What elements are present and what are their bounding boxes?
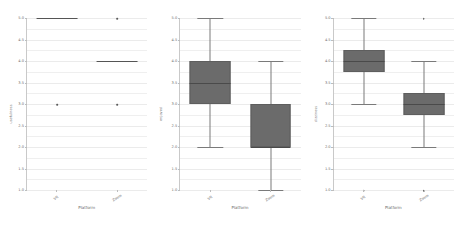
y-tick-label: 4.0 — [325, 59, 331, 63]
x-tick-label-zoom: Zoom — [418, 194, 429, 203]
y-tick-label: 3.5 — [325, 81, 331, 85]
box-flat-line — [97, 61, 138, 62]
y-tick-mark — [178, 190, 181, 191]
gridline — [27, 190, 147, 191]
y-tick-label: 1.5 — [172, 167, 178, 171]
plot-area — [333, 18, 454, 191]
median-line — [343, 61, 384, 62]
boxplot-vr — [190, 18, 231, 190]
y-tick-label: 2.0 — [18, 145, 24, 149]
y-tick-label: 3.5 — [18, 81, 24, 85]
y-tick-mark — [25, 126, 28, 127]
plot-area — [26, 18, 147, 191]
whisker-lower — [423, 115, 424, 147]
median-line — [190, 83, 231, 84]
y-tick-label: 4.0 — [18, 59, 24, 63]
x-tick-label-zoom: Zoom — [112, 194, 123, 203]
y-tick-label: 3.0 — [325, 102, 331, 106]
whisker-upper — [423, 61, 424, 93]
outlier-point — [116, 104, 118, 106]
y-tick-label: 2.0 — [325, 145, 331, 149]
outlier-point — [56, 104, 58, 106]
y-tick-label: 1.0 — [172, 188, 178, 192]
y-tick-label: 1.0 — [325, 188, 331, 192]
median-line — [403, 104, 444, 105]
y-tick-label: 4.5 — [325, 38, 331, 42]
y-tick-mark — [25, 169, 28, 170]
median-line — [250, 147, 291, 148]
outlier-point — [116, 18, 118, 20]
y-tick-mark — [25, 104, 28, 105]
boxplot-vr — [37, 18, 78, 190]
y-tick-label: 4.5 — [18, 38, 24, 42]
x-tick-mark — [363, 190, 364, 193]
boxplot-zoom — [97, 18, 138, 190]
y-axis-ticks: 1.01.52.02.53.03.54.04.55.0 — [8, 18, 24, 190]
whisker-cap-lower — [411, 147, 436, 148]
whisker-cap-upper — [198, 18, 223, 19]
x-axis-title: Platform — [333, 205, 454, 210]
whisker-cap-upper — [351, 18, 376, 19]
y-tick-mark — [331, 147, 334, 148]
y-tick-label: 5.0 — [172, 16, 178, 20]
y-tick-label: 4.0 — [172, 59, 178, 63]
y-tick-mark — [178, 147, 181, 148]
y-tick-mark — [178, 126, 181, 127]
x-tick-mark — [424, 190, 425, 193]
whisker-upper — [363, 18, 364, 50]
x-tick-label-vr: VR — [53, 195, 59, 201]
whisker-cap-upper — [258, 61, 283, 62]
x-axis-ticks: VRZoom — [26, 192, 147, 204]
y-tick-mark — [331, 18, 334, 19]
boxplot-zoom — [403, 18, 444, 190]
x-tick-mark — [270, 190, 271, 193]
y-tick-mark — [25, 190, 28, 191]
whisker-cap-lower — [351, 104, 376, 105]
plot-area — [179, 18, 300, 191]
x-axis-title: Platform — [26, 205, 147, 210]
y-tick-label: 2.5 — [172, 124, 178, 128]
x-tick-mark — [210, 190, 211, 193]
y-tick-label: 3.5 — [172, 81, 178, 85]
y-axis-ticks: 1.01.52.02.53.03.54.04.55.0 — [161, 18, 177, 190]
y-tick-mark — [331, 61, 334, 62]
boxplot-figure: usefulness1.01.52.02.53.03.54.04.55.0VRZ… — [0, 0, 460, 227]
x-axis-title: Platform — [179, 205, 300, 210]
x-axis-ticks: VRZoom — [179, 192, 300, 204]
whisker-cap-upper — [411, 61, 436, 62]
y-tick-label: 3.0 — [18, 102, 24, 106]
y-tick-mark — [25, 83, 28, 84]
whisker-lower — [210, 104, 211, 147]
y-tick-label: 2.5 — [18, 124, 24, 128]
y-tick-mark — [331, 40, 334, 41]
y-tick-label: 5.0 — [325, 16, 331, 20]
y-tick-mark — [25, 40, 28, 41]
box-iqr — [250, 104, 291, 147]
x-tick-label-vr: VR — [360, 195, 366, 201]
gridline — [334, 190, 454, 191]
x-tick-label-vr: VR — [206, 195, 212, 201]
panel-usefulness: usefulness1.01.52.02.53.03.54.04.55.0VRZ… — [0, 0, 153, 227]
y-tick-mark — [178, 61, 181, 62]
box-flat-line — [37, 18, 78, 19]
y-tick-mark — [25, 18, 28, 19]
y-tick-mark — [178, 104, 181, 105]
y-tick-label: 1.5 — [18, 167, 24, 171]
y-tick-mark — [331, 126, 334, 127]
boxplot-zoom — [250, 18, 291, 190]
whisker-lower — [270, 147, 271, 190]
y-tick-mark — [178, 83, 181, 84]
y-tick-mark — [178, 169, 181, 170]
whisker-upper — [270, 61, 271, 104]
whisker-upper — [210, 18, 211, 61]
y-axis-ticks: 1.01.52.02.53.03.54.04.55.0 — [315, 18, 331, 190]
outlier-point — [423, 18, 425, 20]
y-tick-mark — [331, 190, 334, 191]
y-tick-label: 4.5 — [172, 38, 178, 42]
y-tick-mark — [331, 169, 334, 170]
y-tick-label: 1.5 — [325, 167, 331, 171]
y-tick-label: 5.0 — [18, 16, 24, 20]
boxplot-vr — [343, 18, 384, 190]
y-tick-mark — [331, 104, 334, 105]
x-tick-mark — [56, 190, 57, 193]
